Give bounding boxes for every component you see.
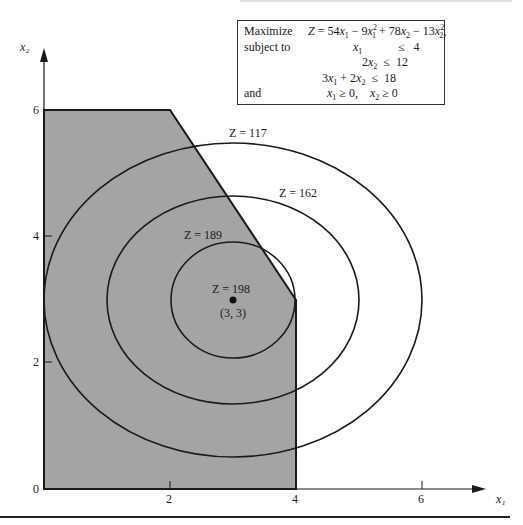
- formula-label: and: [244, 86, 261, 102]
- formula-label: subject to: [244, 40, 290, 56]
- x-tick-label-6: 6: [418, 492, 424, 507]
- optimum-point: [230, 297, 237, 304]
- formula-row-constraint-1: subject to x1 ≤ 4: [244, 40, 444, 56]
- optimum-label: (3, 3): [220, 306, 246, 321]
- x-tick-label-2: 2: [166, 492, 172, 507]
- formula-row-objective: Maximize Z = 54x1 − 9x21 + 78x2 − 13x22,: [244, 24, 444, 40]
- contour-label-162: Z = 162: [279, 186, 317, 201]
- formula-row-constraint-3: 3x1 + 2x2 ≤ 18: [244, 71, 444, 87]
- formula-expression: x1: [353, 40, 362, 56]
- y-tick-label-2: 2: [33, 355, 39, 370]
- y-tick-label-6: 6: [33, 103, 39, 118]
- problem-formulation-box: Maximize Z = 54x1 − 9x21 + 78x2 − 13x22,…: [237, 20, 445, 105]
- formula-expression: 3x1 + 2x2 ≤ 18: [322, 71, 396, 87]
- x-axis-label: x₁: [496, 492, 506, 507]
- formula-expression: Z = 54x1 − 9x21 + 78x2 − 13x22,: [308, 24, 446, 40]
- y-tick-label-4: 4: [33, 229, 39, 244]
- y-axis-arrow-icon: [40, 48, 48, 62]
- formula-label: Maximize: [244, 24, 293, 40]
- origin-label: 0: [33, 482, 39, 497]
- formula-expression: 2x2 ≤ 12: [362, 55, 408, 71]
- formula-row-constraint-2: 2x2 ≤ 12: [244, 55, 444, 71]
- formula-expression: ≤ 4: [398, 40, 420, 56]
- x-axis-arrow-icon: [472, 485, 486, 493]
- contour-label-198: Z = 198: [212, 282, 250, 297]
- formula-expression: x1 ≥ 0, x2 ≥ 0: [327, 86, 398, 102]
- feasible-region: [44, 110, 296, 489]
- formula-row-nonneg: and x1 ≥ 0, x2 ≥ 0: [244, 86, 444, 102]
- bottom-rule: [0, 516, 510, 518]
- x-tick-label-4: 4: [292, 492, 298, 507]
- contour-label-117: Z = 117: [229, 126, 267, 141]
- y-axis-label: x₂: [20, 40, 30, 55]
- contour-label-189: Z = 189: [184, 228, 222, 243]
